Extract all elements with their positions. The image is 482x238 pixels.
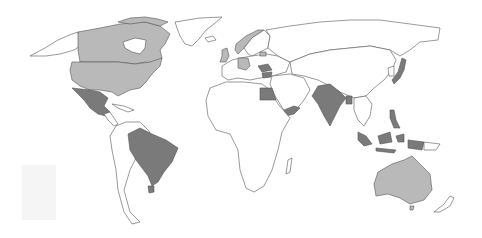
country-greenland — [175, 17, 222, 46]
country-uk — [220, 48, 229, 62]
country-lithuania — [260, 52, 266, 56]
country-papua-new-guinea — [424, 142, 440, 150]
southeast-asia — [354, 96, 372, 126]
country-tasmania — [410, 206, 414, 210]
country-madagascar — [286, 158, 292, 174]
country-philippines — [390, 110, 400, 128]
country-germany — [238, 58, 250, 70]
country-mexico — [72, 88, 110, 116]
world-map — [0, 0, 482, 238]
country-bulgaria — [262, 72, 272, 78]
country-alaska — [30, 32, 80, 56]
central-america — [104, 112, 118, 126]
country-brazil — [128, 128, 178, 186]
country-new-zealand — [434, 196, 454, 212]
caribbean-islands — [112, 104, 134, 112]
country-uruguay — [148, 186, 154, 193]
faint-watermark — [22, 165, 56, 220]
country-indonesia — [358, 132, 424, 153]
country-bangladesh — [346, 96, 352, 104]
country-australia — [374, 156, 432, 204]
country-korea — [388, 66, 394, 76]
country-iceland — [205, 36, 216, 42]
